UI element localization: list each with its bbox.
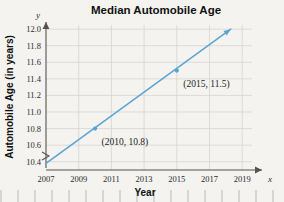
y-tick-label: 10.4 (26, 157, 42, 167)
y-tick-label: 11.8 (26, 41, 41, 51)
y-tick-label: 11.0 (26, 107, 41, 117)
data-point-marker (175, 68, 179, 72)
chart-title: Median Automobile Age (91, 4, 221, 16)
point-annotations: (2010, 10.8)(2015, 11.5) (102, 79, 230, 148)
median-automobile-age-chart: Median Automobile Age Automobile Age (in… (0, 0, 284, 202)
x-tick-label: 2007 (38, 174, 55, 184)
x-tick-label: 2009 (70, 174, 87, 184)
y-axis-letter: y (35, 10, 40, 20)
y-axis-title: Automobile Age (in years) (4, 35, 15, 159)
x-tick-label: 2017 (201, 174, 218, 184)
y-tick-label: 11.4 (26, 74, 41, 84)
y-tick-labels: 10.410.610.811.011.211.411.611.812.0 (26, 24, 42, 167)
y-tick-label: 10.8 (26, 124, 41, 134)
x-tick-label: 2013 (136, 174, 153, 184)
x-axis-letter: x (267, 174, 272, 184)
x-tick-label: 2015 (168, 174, 185, 184)
x-tick-label: 2019 (234, 174, 251, 184)
x-tick-labels: 2007200920112013201520172019 (38, 174, 251, 184)
y-tick-label: 11.6 (26, 57, 41, 67)
point-annotation-label: (2015, 11.5) (183, 79, 229, 90)
y-tick-label: 11.2 (26, 90, 41, 100)
x-axis-arrow-icon (255, 167, 262, 174)
data-point-marker (93, 126, 97, 130)
point-annotation-label: (2010, 10.8) (102, 137, 149, 148)
scan-artifact (0, 190, 284, 202)
y-tick-label: 10.6 (26, 140, 41, 150)
grid-vertical (79, 25, 242, 170)
x-tick-label: 2011 (103, 174, 120, 184)
y-tick-label: 12.0 (26, 24, 41, 34)
y-axis-arrow-icon (43, 22, 50, 29)
chart-container: Median Automobile Age Automobile Age (in… (0, 0, 284, 202)
point-markers (93, 68, 179, 130)
